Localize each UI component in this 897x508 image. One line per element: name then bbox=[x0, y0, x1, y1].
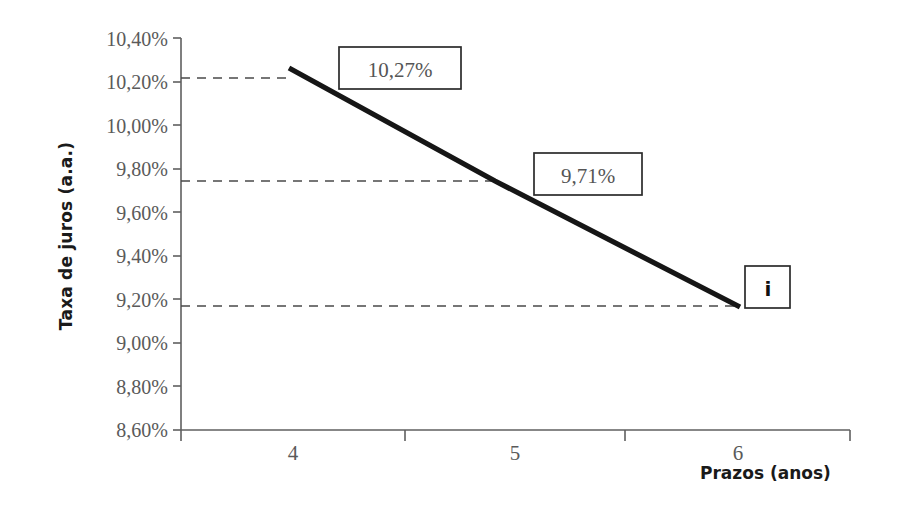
y-tick-label: 8,60% bbox=[116, 419, 168, 441]
y-tick-label: 8,80% bbox=[116, 376, 168, 398]
x-tick-label: 6 bbox=[733, 441, 744, 465]
y-tick-label: 9,40% bbox=[116, 245, 168, 267]
series-line-taxa-de-juros bbox=[289, 68, 740, 307]
data-label-box-3: i bbox=[745, 266, 790, 308]
data-label-1-text: 10,27% bbox=[368, 58, 433, 82]
data-label-box-1: 10,27% bbox=[339, 47, 461, 89]
x-tick-label: 4 bbox=[288, 441, 299, 465]
y-tick-label: 10,20% bbox=[106, 71, 168, 93]
y-tick-label: 9,80% bbox=[116, 158, 168, 180]
x-tick-label: 5 bbox=[510, 441, 521, 465]
y-tick-label: 9,00% bbox=[116, 332, 168, 354]
y-tick-label: 9,60% bbox=[116, 202, 168, 224]
chart-screenshot: Taxa de juros (a.a.) Prazos (anos) 10,40… bbox=[0, 0, 897, 508]
data-label-box-2: 9,71% bbox=[534, 153, 642, 195]
y-tick-label: 9,20% bbox=[116, 289, 168, 311]
y-tick-label: 10,00% bbox=[106, 115, 168, 137]
line-chart-plot: 10,40% 10,20% 10,00% 9,80% 9,60% 9,40% 9… bbox=[0, 0, 897, 508]
data-label-2-text: 9,71% bbox=[561, 164, 615, 188]
y-tick-label: 10,40% bbox=[106, 28, 168, 50]
data-label-3-text: i bbox=[765, 277, 772, 301]
